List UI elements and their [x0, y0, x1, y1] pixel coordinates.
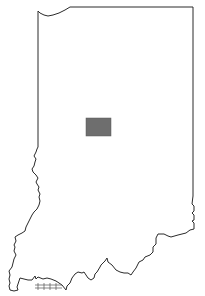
highlighted-county[interactable] — [86, 118, 111, 136]
river-hatch-detail — [35, 283, 62, 290]
indiana-outline-map — [0, 0, 205, 296]
state-outline — [9, 7, 194, 291]
